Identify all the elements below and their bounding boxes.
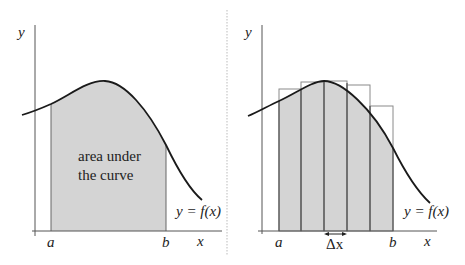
area-text-line1: area under — [78, 148, 141, 164]
left-panel: y x a b y = f(x) area under the curve — [16, 24, 222, 250]
y-axis-label-right: y — [243, 24, 252, 40]
a-label-right: a — [275, 234, 283, 250]
a-label: a — [47, 234, 55, 250]
b-label-right: b — [389, 234, 397, 250]
riemann-sum-diagram: y x a b y = f(x) area under the curve — [0, 0, 465, 265]
x-axis-label: x — [196, 233, 204, 249]
x-axis-label-right: x — [423, 233, 431, 249]
b-label: b — [162, 234, 170, 250]
area-under-curve-right — [279, 81, 393, 231]
delta-x-label: Δx — [326, 236, 344, 252]
right-panel: y x a b Δx y = f(x) — [243, 24, 449, 252]
function-label: y = f(x) — [174, 203, 221, 220]
y-axis-label: y — [16, 24, 25, 40]
function-label-right: y = f(x) — [402, 203, 449, 220]
area-text-line2: the curve — [78, 167, 134, 183]
